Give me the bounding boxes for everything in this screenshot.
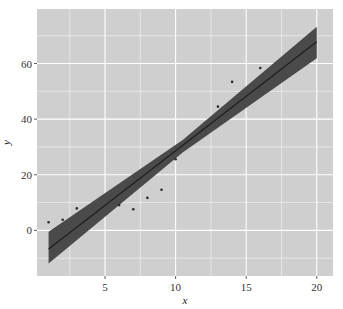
data-point [47,221,50,224]
data-point [118,204,121,207]
data-point [217,105,220,108]
data-point [76,207,79,210]
y-tick-label: 60 [21,58,33,70]
x-tick-label: 20 [311,281,323,293]
y-axis-title: y [0,140,12,146]
x-tick-label: 10 [170,281,182,293]
data-point [160,188,163,191]
y-axis: 0204060 [21,58,37,237]
y-tick-label: 20 [21,169,33,181]
data-point [259,67,262,70]
data-point [231,81,234,84]
x-axis: 5101520 [102,276,322,293]
data-point [132,208,135,211]
x-tick-label: 15 [241,281,253,293]
x-tick-label: 5 [102,281,108,293]
y-tick-label: 0 [27,224,33,236]
data-point [174,158,177,161]
x-axis-title: x [182,294,188,306]
data-point [146,197,149,200]
y-tick-label: 40 [21,113,33,125]
data-point [61,219,64,222]
chart: 5101520 0204060 x y [0,0,343,309]
